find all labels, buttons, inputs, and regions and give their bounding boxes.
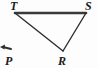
- vertex-label-S: S: [85, 0, 92, 12]
- vertex-label-P: P: [5, 55, 12, 67]
- ray-marker-P: [0, 45, 11, 50]
- segment-TR: [15, 13, 63, 51]
- vertex-label-R: R: [58, 55, 66, 67]
- geometry-figure: T S R P: [0, 0, 98, 68]
- segment-SR: [63, 13, 86, 51]
- vertex-label-T: T: [10, 0, 17, 12]
